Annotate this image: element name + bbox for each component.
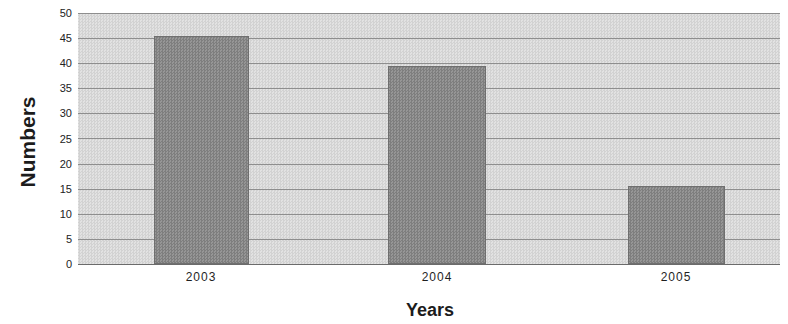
bar-2005: [628, 186, 725, 264]
bar-chart: Numbers 50 45 40 35 30 25 20 15 10 5 0 2…: [0, 0, 788, 324]
y-tick-label: 10: [36, 208, 72, 219]
y-tick-label: 35: [36, 83, 72, 94]
y-tick-label: 25: [36, 133, 72, 144]
y-tick-label: 20: [36, 158, 72, 169]
y-axis-tick-labels: 50 45 40 35 30 25 20 15 10 5 0: [36, 13, 72, 264]
x-tick-label-2003: 2003: [186, 270, 217, 284]
y-tick-label: 0: [36, 259, 72, 270]
y-tick-label: 40: [36, 58, 72, 69]
x-tick-label-2004: 2004: [422, 270, 453, 284]
y-tick-label: 45: [36, 33, 72, 44]
y-tick-label: 50: [36, 8, 72, 19]
bar-2003: [154, 36, 249, 264]
x-axis-title: Years: [370, 300, 490, 321]
y-tick-label: 30: [36, 108, 72, 119]
gridline: [78, 13, 780, 14]
plot-area: [78, 13, 780, 265]
y-tick-label: 15: [36, 183, 72, 194]
x-tick-label-2005: 2005: [661, 270, 692, 284]
y-tick-label: 5: [36, 233, 72, 244]
bar-2004: [388, 66, 486, 264]
